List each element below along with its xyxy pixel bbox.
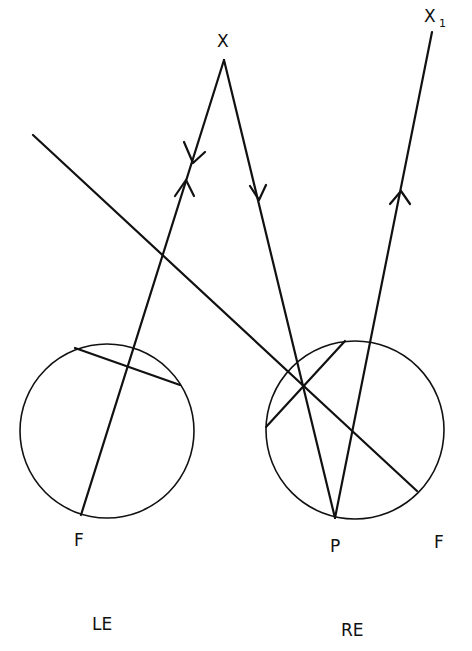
label-right-f: F	[434, 532, 444, 552]
ray-diagram: X X 1 F F P LE RE	[0, 0, 472, 651]
right-eye-circle	[266, 341, 444, 519]
diagram-canvas: X X 1 F F P LE RE	[0, 0, 472, 651]
label-x1: X	[424, 6, 436, 26]
ray-x-to-p	[224, 60, 335, 518]
ray-p-to-x1	[335, 32, 432, 518]
left-visual-axis	[81, 60, 224, 515]
label-x1-subscript: 1	[439, 17, 446, 30]
label-left-f: F	[74, 530, 84, 550]
label-x: X	[217, 31, 229, 51]
label-left-eye: LE	[92, 614, 112, 634]
diagonal-axis-line	[33, 135, 417, 491]
label-p: P	[330, 536, 340, 556]
arrow-down-right-icon	[250, 185, 266, 200]
label-right-eye: RE	[341, 620, 364, 640]
